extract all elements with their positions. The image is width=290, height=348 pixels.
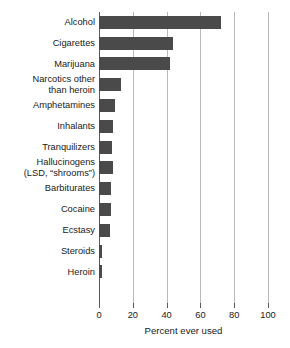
x-axis-title: Percent ever used [99, 325, 268, 336]
bar [99, 57, 170, 70]
tick-mark [167, 303, 168, 308]
bar-row [99, 137, 112, 158]
bar-row [99, 12, 221, 33]
category-label: Hallucinogens(LSD, “shrooms”) [0, 158, 95, 179]
tick-mark [268, 303, 269, 308]
bar-row [99, 158, 113, 179]
bar-row [99, 199, 111, 220]
category-label: Cigarettes [0, 33, 95, 54]
tick-label: 100 [260, 309, 276, 321]
tick-mark [200, 303, 201, 308]
bar-row [99, 95, 115, 116]
category-label: Alcohol [0, 12, 95, 33]
tick-mark [99, 303, 100, 308]
bar [99, 99, 115, 112]
bar [99, 78, 121, 91]
bar-row [99, 178, 111, 199]
bar [99, 120, 113, 133]
category-label: Narcotics otherthan heroin [0, 74, 95, 95]
bar [99, 182, 111, 195]
bar [99, 245, 102, 258]
category-label: Marijuana [0, 54, 95, 75]
bar [99, 16, 221, 29]
category-axis-labels: AlcoholCigarettesMarijuanaNarcotics othe… [0, 12, 95, 303]
x-axis-ticks [99, 303, 268, 308]
category-label: Amphetamines [0, 95, 95, 116]
category-label: Inhalants [0, 116, 95, 137]
plot-area [99, 12, 268, 303]
bar [99, 141, 112, 154]
tick-label: 80 [229, 309, 239, 321]
bar-row [99, 54, 170, 75]
bar-row [99, 74, 121, 95]
bar-row [99, 261, 102, 282]
bar [99, 203, 111, 216]
bar [99, 161, 113, 174]
bar-row [99, 220, 110, 241]
category-label: Steroids [0, 241, 95, 262]
bar-chart: AlcoholCigarettesMarijuanaNarcotics othe… [0, 0, 290, 348]
bar-series [99, 12, 268, 303]
category-label: Barbiturates [0, 178, 95, 199]
category-label: Tranquilizers [0, 137, 95, 158]
gridline-100 [268, 12, 269, 303]
bar [99, 37, 173, 50]
bar-row [99, 241, 102, 262]
bar [99, 265, 102, 278]
tick-label: 20 [128, 309, 138, 321]
tick-mark [234, 303, 235, 308]
bar [99, 224, 110, 237]
category-label: Ecstasy [0, 220, 95, 241]
bar-row [99, 116, 113, 137]
tick-mark [133, 303, 134, 308]
tick-label: 60 [195, 309, 205, 321]
tick-label: 0 [96, 309, 101, 321]
x-axis-tick-labels: 020406080100 [0, 309, 290, 322]
category-label: Heroin [0, 261, 95, 282]
category-label: Cocaine [0, 199, 95, 220]
bar-row [99, 33, 173, 54]
tick-label: 40 [161, 309, 171, 321]
